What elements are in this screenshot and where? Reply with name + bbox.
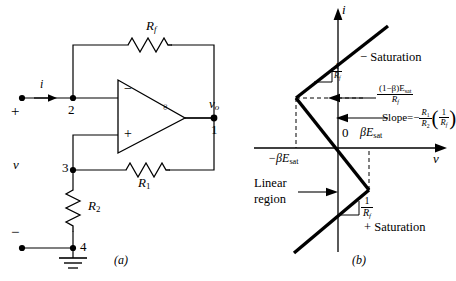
linear-region-arrow [298, 188, 338, 196]
y-axis-label: i [342, 3, 346, 16]
origin-label: 0 [342, 126, 349, 139]
terminal-label-minus: − [11, 225, 19, 240]
circuit-diagram-panel: Rf R1 R2 i + v − 2 3 4 vo 1 − + ∞ (a) [0, 0, 236, 281]
current-label-i: i [40, 78, 43, 90]
terminal-dot-positive [19, 95, 25, 101]
opamp-inverting-input-label: − [124, 82, 132, 96]
output-voltage-label: vo [209, 97, 219, 112]
breakpoint-current-expression: (1−β)Esat Rf [377, 84, 413, 105]
terminal-label-plus: + [11, 104, 19, 119]
negative-saturation-label: − Saturation [360, 51, 422, 64]
node-label-3: 3 [62, 161, 69, 174]
resistor-r1-label: R1 [138, 176, 150, 191]
resistor-rf-label: Rf [146, 19, 156, 34]
transfer-characteristic-panel: i v 0 − Saturation + Saturation 1 Rf 1 R… [236, 0, 454, 281]
resistor-rf [128, 38, 172, 52]
slope-value-lower: 1 Rf [361, 196, 373, 219]
slope-value-upper: 1 Rf [332, 63, 342, 82]
negative-breakpoint-label: −βEsat [268, 152, 298, 166]
positive-saturation-label: + Saturation [364, 221, 426, 234]
linear-region-line-2: region [254, 192, 287, 208]
linear-region-label: Linear region [254, 176, 287, 207]
terminal-label-v: v [13, 158, 19, 171]
opamp-infinity-gain-icon: ∞ [161, 104, 170, 110]
current-arrow-i [34, 94, 57, 102]
panel-b-caption: (b) [352, 254, 366, 266]
transfer-characteristic-svg [236, 0, 454, 281]
resistor-r2-label: R2 [88, 199, 100, 214]
slope-expression: Slope=− R1 R2 ( 1 Rf ) [382, 108, 456, 128]
breakpoint-current-arrow [328, 94, 376, 102]
resistor-r2 [66, 190, 80, 232]
node-dot-2 [70, 95, 76, 101]
node-label-2: 2 [68, 103, 75, 116]
linear-region-line-1: Linear [254, 176, 287, 192]
circuit-schematic-svg [0, 0, 236, 281]
terminal-dot-negative [19, 245, 25, 251]
x-axis-label: v [433, 152, 439, 165]
opamp-noninverting-input-label: + [124, 127, 132, 141]
resistor-r1 [126, 163, 170, 177]
noninverting-input-wire [73, 135, 118, 170]
panel-a-caption: (a) [114, 254, 128, 266]
positive-breakpoint-label: βEsat [360, 126, 382, 140]
node-label-4: 4 [80, 240, 87, 253]
slope-annotation-arrow [336, 114, 388, 122]
node-label-1: 1 [211, 123, 218, 136]
